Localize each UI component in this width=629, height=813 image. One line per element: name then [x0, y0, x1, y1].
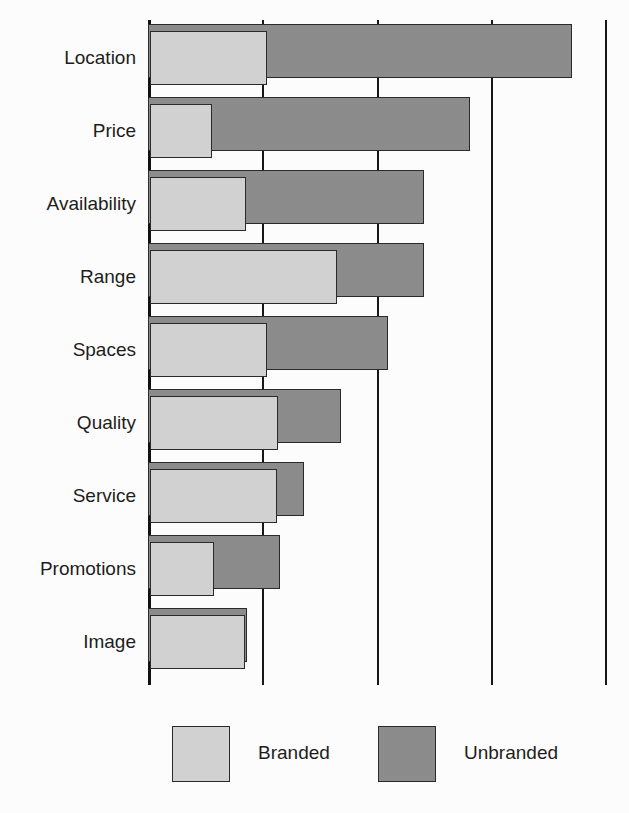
bar-row: Location — [0, 20, 629, 93]
bar-row: Availability — [0, 166, 629, 239]
category-label-availability: Availability — [0, 194, 136, 213]
bar-branded-quality — [150, 396, 278, 450]
bar-row: Promotions — [0, 531, 629, 604]
category-label-quality: Quality — [0, 413, 136, 432]
bar-row: Image — [0, 604, 629, 677]
category-label-promotions: Promotions — [0, 559, 136, 578]
bar-row: Service — [0, 458, 629, 531]
category-label-spaces: Spaces — [0, 340, 136, 359]
bar-branded-service — [150, 469, 277, 523]
legend-label-unbranded: Unbranded — [464, 743, 558, 762]
bar-branded-spaces — [150, 323, 267, 377]
bar-branded-availability — [150, 177, 246, 231]
category-label-price: Price — [0, 121, 136, 140]
plot-area: LocationPriceAvailabilityRangeSpacesQual… — [0, 0, 629, 700]
bar-row: Price — [0, 93, 629, 166]
bar-row: Quality — [0, 385, 629, 458]
legend-label-branded: Branded — [258, 743, 330, 762]
category-label-range: Range — [0, 267, 136, 286]
bar-branded-image — [150, 615, 245, 669]
bar-branded-range — [150, 250, 337, 304]
dark-grey-swatch — [378, 726, 436, 782]
bar-branded-promotions — [150, 542, 214, 596]
bar-chart-figure: LocationPriceAvailabilityRangeSpacesQual… — [0, 0, 629, 813]
light-grey-swatch — [172, 726, 230, 782]
bar-branded-price — [150, 104, 212, 158]
category-label-image: Image — [0, 632, 136, 651]
bar-row: Spaces — [0, 312, 629, 385]
bar-branded-location — [150, 31, 267, 85]
category-label-location: Location — [0, 48, 136, 67]
chart-legend: BrandedUnbranded — [0, 712, 629, 812]
bar-row: Range — [0, 239, 629, 312]
category-label-service: Service — [0, 486, 136, 505]
